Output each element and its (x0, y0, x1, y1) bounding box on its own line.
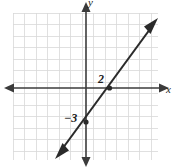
graph-figure: 2 −3 x y (0, 0, 178, 168)
x-intercept-label: 2 (98, 73, 104, 85)
x-intercept-point (107, 85, 112, 90)
x-axis-arrow-left (4, 84, 14, 93)
y-axis (82, 2, 91, 167)
y-axis-arrow-bottom (82, 157, 91, 167)
coordinate-plane-svg (0, 0, 178, 168)
y-intercept-point (83, 119, 88, 124)
y-axis-label: y (88, 0, 93, 8)
x-axis-label: x (166, 84, 171, 95)
y-intercept-label: −3 (64, 112, 77, 124)
